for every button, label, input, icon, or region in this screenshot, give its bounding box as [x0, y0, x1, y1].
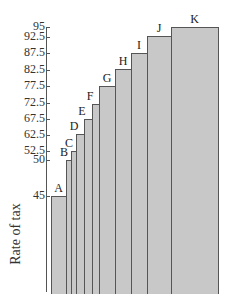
y-tick-label: 87.5 [24, 46, 45, 58]
bar-j [147, 36, 172, 294]
bar-label-i: I [131, 39, 147, 51]
y-tick [46, 196, 50, 197]
bar-label-f: F [84, 90, 96, 102]
bar-g [99, 86, 116, 294]
y-tick [46, 70, 50, 71]
bar-label-k: K [171, 13, 218, 25]
bar-h [115, 69, 132, 294]
y-tick [46, 27, 50, 28]
bar-label-g: G [99, 72, 115, 84]
y-tick-label: 50 [33, 153, 45, 165]
y-tick [46, 160, 50, 161]
y-tick-label: 45 [33, 189, 45, 201]
y-tick-label: 72.5 [24, 96, 45, 108]
y-tick-label: 92.5 [24, 30, 45, 42]
bar-label-c: C [63, 137, 75, 149]
y-tick-label: 77.5 [24, 79, 45, 91]
y-tick [46, 37, 50, 38]
y-tick-label: 62.5 [24, 128, 45, 140]
bar-i [131, 53, 148, 294]
y-tick-label: 82.5 [24, 63, 45, 75]
y-tick [46, 135, 50, 136]
bar-k [171, 27, 219, 294]
y-tick [46, 103, 50, 104]
bar-label-a: A [51, 182, 66, 194]
y-tick [46, 119, 50, 120]
y-tick-label: 67.5 [24, 112, 45, 124]
y-axis-label: Rate of tax [8, 194, 24, 274]
bar-label-h: H [115, 55, 131, 67]
y-tick [46, 53, 50, 54]
y-tick [46, 151, 50, 152]
bar-label-j: J [147, 22, 171, 34]
bar-a [51, 196, 67, 294]
y-tick [46, 86, 50, 87]
bar-label-d: D [68, 120, 80, 132]
bar-label-e: E [76, 105, 88, 117]
